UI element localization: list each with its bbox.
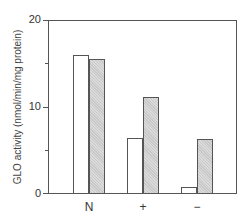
bar-plus-open — [127, 138, 143, 194]
bar-plus-shaded — [143, 97, 159, 194]
bar-N-shaded — [89, 59, 105, 194]
x-tick-label-minus: − — [193, 200, 200, 214]
x-tick-label-N: N — [85, 200, 94, 214]
bar-minus-open — [181, 187, 197, 194]
y-tick-label-20: 20 — [29, 14, 41, 25]
bar-N-open — [73, 55, 89, 194]
x-tick-label-plus: + — [139, 200, 146, 214]
y-tick-label-0: 0 — [35, 188, 41, 199]
bar-minus-shaded — [197, 139, 213, 194]
y-tick-label-10: 10 — [29, 101, 41, 112]
y-axis-label: GLO activity (nmol/min/mg protein) — [12, 30, 23, 185]
